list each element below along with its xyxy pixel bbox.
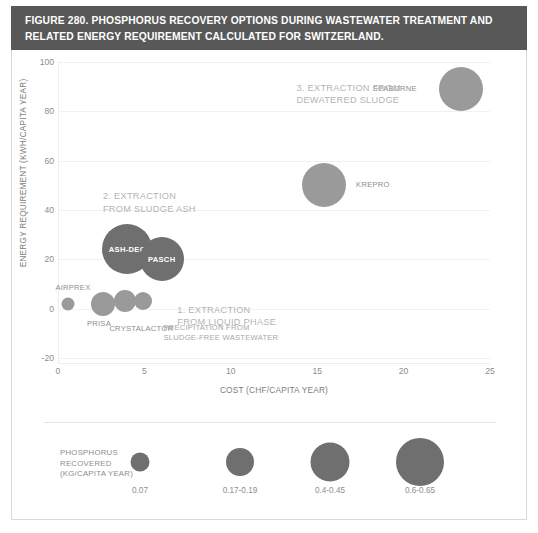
point-label-krepro: KREPRO [356, 180, 390, 189]
y-tick-label: 100 [6, 57, 54, 67]
x-tick-label: 20 [399, 366, 409, 376]
point-label-airprex: AIRPREX [55, 283, 90, 292]
legend-bubble [311, 443, 350, 482]
x-axis-line [58, 363, 490, 364]
bubble-label: PASCH [148, 255, 176, 264]
plot-area: ASH-DECPASCHSEABORNEKREPROAIRPREXPRISACR… [58, 62, 490, 358]
legend-separator [44, 422, 496, 423]
legend-value: 0.17-0.19 [194, 486, 286, 495]
bubble-krepro[interactable] [302, 163, 346, 207]
gridline [58, 62, 490, 63]
x-axis-title: COST (CHF/CAPITA YEAR) [58, 385, 490, 395]
point-label-prisa: PRISA [87, 319, 111, 328]
gridline [58, 358, 490, 359]
y-tick-label: 40 [6, 205, 54, 215]
x-tick-label: 5 [142, 366, 147, 376]
legend-item: 0.07 [94, 430, 186, 496]
bubble-unlabeled[interactable] [134, 292, 152, 310]
legend-item: 0.6-0.65 [374, 430, 466, 496]
y-axis-title: ENERGY REQUIREMENT (KWH/CAPITA YEAR) [18, 58, 28, 288]
bubble-prisa[interactable] [91, 292, 115, 316]
legend-bubble [396, 438, 444, 486]
bubble-airprex[interactable] [62, 297, 75, 310]
legend-item: 0.4-0.45 [284, 430, 376, 496]
legend-value: 0.6-0.65 [374, 486, 466, 495]
y-tick-label: 20 [6, 254, 54, 264]
figure-title-bar: FIGURE 280. PHOSPHORUS RECOVERY OPTIONS … [11, 6, 527, 50]
chart-sub-annotation: PRECIPITATION FROM SLUDGE-FREE WASTEWATE… [163, 323, 278, 343]
x-tick-label: 25 [485, 366, 495, 376]
legend-bubble [226, 448, 254, 476]
y-tick-label: 0 [6, 304, 54, 314]
chart-annotation: 3. EXTRACTION FROM DEWATERED SLUDGE [296, 82, 400, 107]
x-tick-label: 10 [226, 366, 236, 376]
legend-bubble [131, 453, 150, 472]
x-tick-label: 0 [56, 366, 61, 376]
chart-annotation: 2. EXTRACTION FROM SLUDGE ASH [103, 190, 196, 215]
legend-value: 0.4-0.45 [284, 486, 376, 495]
legend-item: 0.17-0.19 [194, 430, 286, 496]
y-tick-label: 60 [6, 156, 54, 166]
x-tick-label: 15 [312, 366, 322, 376]
bubble-seaborne[interactable] [439, 67, 483, 111]
x-axis-ticks: 0510152025 [58, 366, 490, 382]
y-tick-label: 80 [6, 106, 54, 116]
gridline [58, 161, 490, 162]
figure-title: FIGURE 280. PHOSPHORUS RECOVERY OPTIONS … [25, 15, 493, 42]
y-tick-label: -20 [6, 353, 54, 363]
legend-value: 0.07 [94, 486, 186, 495]
bubble-pasch[interactable]: PASCH [140, 237, 184, 281]
figure-container: FIGURE 280. PHOSPHORUS RECOVERY OPTIONS … [0, 0, 538, 533]
gridline [58, 111, 490, 112]
